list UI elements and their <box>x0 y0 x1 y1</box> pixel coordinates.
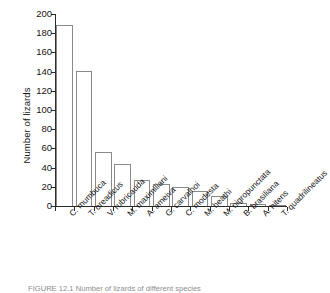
y-tick-label: 120 <box>36 85 52 96</box>
y-tick-label: 100 <box>36 104 52 115</box>
y-tick-label: 140 <box>36 66 52 77</box>
bar <box>56 25 73 206</box>
y-tick-label: 0 <box>47 200 52 211</box>
y-axis-title: Number of lizards <box>21 51 32 201</box>
plot-area: 020406080100120140160180200 <box>55 14 287 206</box>
y-tick-label: 40 <box>41 162 52 173</box>
figure-caption: FIGURE 12.1 Number of lizards of differe… <box>28 284 324 293</box>
y-tick-label: 60 <box>41 142 52 153</box>
y-tick-label: 160 <box>36 46 52 57</box>
x-tick-mark <box>55 207 56 211</box>
y-tick-label: 80 <box>41 123 52 134</box>
bar <box>76 71 93 206</box>
y-tick-label: 180 <box>36 27 52 38</box>
y-tick-label: 200 <box>36 8 52 19</box>
y-tick-label: 20 <box>41 181 52 192</box>
